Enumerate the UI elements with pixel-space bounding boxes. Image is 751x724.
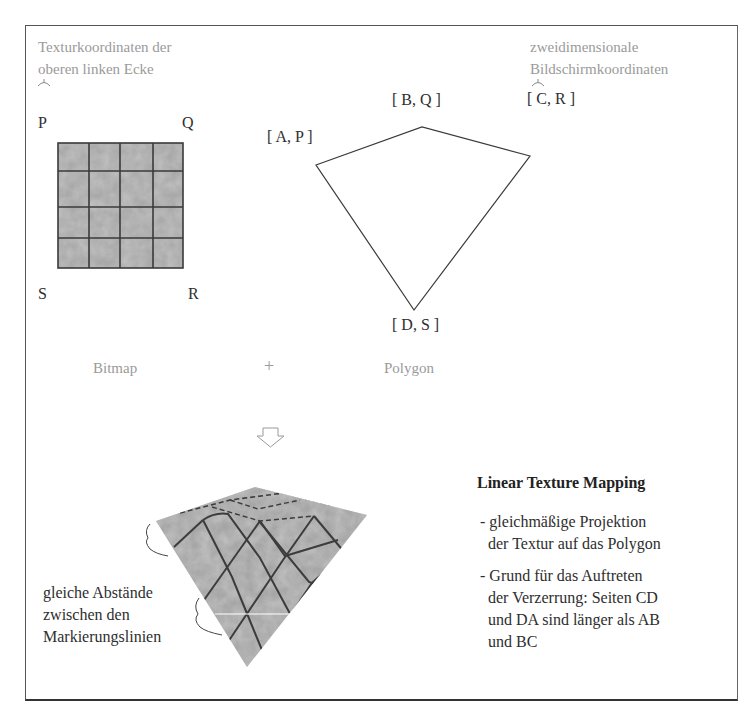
side-note-line2: zwischen den <box>43 604 130 626</box>
bullet-2-line2: der Verzerrung: Seiten CD <box>480 587 658 609</box>
top-left-caption-line1: Texturkoordinaten der <box>38 36 171 58</box>
top-right-caption-line1: zweidimensionale <box>530 36 638 58</box>
bullet-2-line3: und DA sind länger als AB <box>480 609 660 631</box>
explanation-title: Linear Texture Mapping <box>477 474 645 492</box>
bullet-1-line2: der Textur auf das Polygon <box>480 533 661 555</box>
plus-sign: + <box>264 355 274 377</box>
vertex-label-b: [ B, Q ] <box>392 91 441 109</box>
polygon-outline <box>316 127 530 310</box>
vertex-label-d: [ D, S ] <box>392 316 439 334</box>
textured-polygon <box>156 487 367 667</box>
top-right-caption-line2: Bildschirmkoordinaten <box>530 58 668 80</box>
caret-icon-right <box>532 79 544 86</box>
polygon-caption: Polygon <box>384 357 434 379</box>
bitmap-texture <box>58 143 183 268</box>
side-note-line1: gleiche Abstände <box>43 582 153 604</box>
corner-label-q: Q <box>182 114 194 132</box>
vertex-label-a: [ A, P ] <box>267 128 313 146</box>
corner-label-s: S <box>38 285 47 303</box>
corner-label-r: R <box>188 285 199 303</box>
vertex-label-c: [ C, R ] <box>527 90 575 108</box>
top-left-caption-line2: oberen linken Ecke <box>38 58 154 80</box>
down-arrow-icon <box>257 428 284 447</box>
side-note-line3: Markierungslinien <box>43 626 161 648</box>
corner-label-p: P <box>38 114 47 132</box>
caret-icon-left <box>38 79 50 86</box>
bullet-1-line1: - gleichmäßige Projektion <box>480 511 646 533</box>
bullet-2-line4: und BC <box>480 631 537 653</box>
bullet-2-line1: - Grund für das Auftreten <box>480 565 643 587</box>
bitmap-caption: Bitmap <box>93 357 137 379</box>
